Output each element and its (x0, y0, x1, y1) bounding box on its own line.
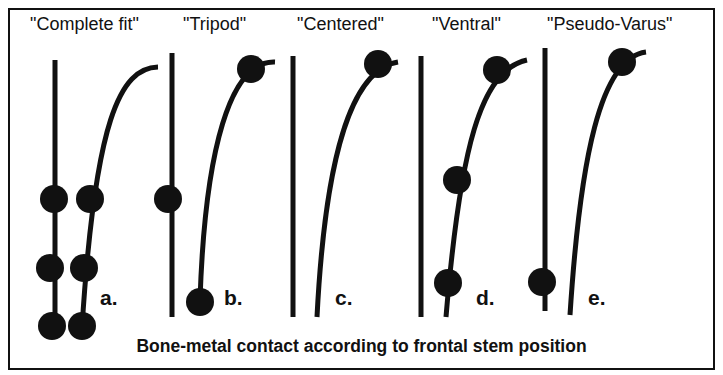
stem-curve-e (570, 52, 646, 315)
panel-c-drawing (293, 56, 398, 317)
stem-diagram (0, 0, 723, 375)
panel-letter-c: c. (335, 286, 353, 310)
contact-point-icon (154, 185, 182, 213)
contact-point-icon (237, 55, 265, 83)
panel-letter-b: b. (224, 286, 243, 310)
contact-point-icon (434, 269, 462, 297)
panel-title-e: "Pseudo-Varus" (547, 14, 673, 35)
contact-point-icon (36, 254, 64, 282)
contact-point-icon (483, 56, 511, 84)
contact-point-icon (364, 50, 392, 78)
stem-curve-b (200, 62, 275, 300)
panel-e-drawing (545, 48, 646, 315)
panel-letter-d: d. (476, 286, 495, 310)
figure-caption: Bone-metal contact according to frontal … (0, 336, 723, 357)
contact-point-icon (76, 185, 104, 213)
panel-letter-a: a. (100, 286, 118, 310)
panel-b-drawing (172, 53, 275, 317)
contact-point-icon (608, 48, 636, 76)
contact-point-icon (443, 166, 471, 194)
panel-title-a: "Complete fit" (30, 14, 139, 35)
contact-point-icon (40, 185, 68, 213)
panel-title-d: "Ventral" (432, 14, 501, 35)
panel-title-c: "Centered" (297, 14, 384, 35)
contact-point-icon (186, 288, 214, 316)
contact-point-icon (528, 268, 556, 296)
panel-title-b: "Tripod" (183, 14, 246, 35)
stem-curve-c (317, 62, 398, 317)
contact-point-icon (70, 254, 98, 282)
panel-letter-e: e. (588, 286, 606, 310)
